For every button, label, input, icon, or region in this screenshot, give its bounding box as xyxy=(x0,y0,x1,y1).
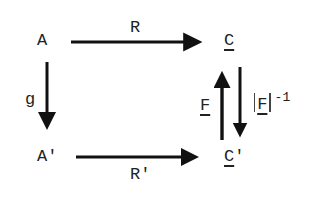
label-r-prime: R' xyxy=(130,166,150,183)
label-f-inverse: F-1 xyxy=(252,93,290,113)
label-f: F xyxy=(200,97,210,114)
node-c-prime: C' xyxy=(224,148,244,165)
node-c-prime-base: C xyxy=(224,147,234,166)
label-f-inverse-exponent: -1 xyxy=(275,90,291,105)
node-a-prime: A' xyxy=(37,148,57,165)
label-f-inverse-base: F xyxy=(257,95,267,114)
abs-bar-left xyxy=(254,93,255,112)
node-c-prime-mark: ' xyxy=(234,147,244,166)
abs-bar-right xyxy=(269,93,270,112)
node-c: C xyxy=(224,32,234,49)
label-r: R xyxy=(130,19,140,36)
node-a: A xyxy=(37,32,47,49)
label-g: g xyxy=(25,91,35,108)
